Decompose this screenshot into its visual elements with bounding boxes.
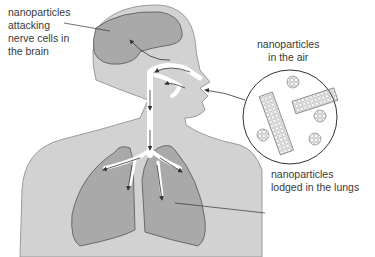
- air-sample-inset: [243, 70, 338, 164]
- label-air: nanoparticles in the air: [257, 38, 319, 64]
- label-brain: nanoparticles attacking nerve cells in t…: [8, 6, 70, 58]
- label-lungs: nanoparticles lodged in the lungs: [271, 168, 359, 194]
